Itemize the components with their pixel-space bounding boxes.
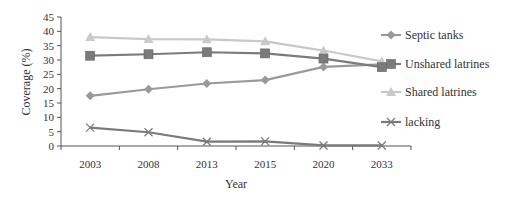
x-tick-label: 2020 bbox=[313, 158, 336, 170]
square-marker-icon bbox=[319, 54, 328, 63]
diamond-marker-icon bbox=[144, 85, 153, 94]
square-marker-icon bbox=[202, 48, 211, 57]
legend-label: Septic tanks bbox=[405, 28, 464, 42]
square-marker-icon bbox=[261, 49, 270, 58]
legend-label: lacking bbox=[405, 115, 440, 129]
y-tick-label: 20 bbox=[43, 83, 55, 95]
y-tick-label: 40 bbox=[43, 25, 55, 37]
x-tick-label: 2008 bbox=[138, 158, 161, 170]
legend-item: Shared latrines bbox=[381, 85, 477, 99]
y-tick-label: 0 bbox=[49, 140, 55, 152]
line-chart: 051015202530354045 200320082013201520202… bbox=[0, 0, 508, 197]
y-tick-label: 10 bbox=[43, 111, 55, 123]
y-axis: 051015202530354045 bbox=[43, 11, 61, 152]
square-marker-icon bbox=[144, 50, 153, 59]
square-marker-icon bbox=[387, 60, 396, 69]
y-axis-title: Coverage (%) bbox=[19, 49, 33, 116]
y-tick-label: 45 bbox=[43, 11, 55, 23]
legend-label: Unshared latrines bbox=[405, 57, 490, 71]
y-tick-label: 25 bbox=[43, 68, 55, 80]
legend-label: Shared latrines bbox=[405, 85, 477, 99]
x-tick-label: 2013 bbox=[196, 158, 219, 170]
series-unshared-latrines bbox=[86, 48, 387, 72]
legend-item: Unshared latrines bbox=[381, 57, 490, 71]
series-septic-tanks bbox=[86, 60, 387, 101]
diamond-marker-icon bbox=[202, 79, 211, 88]
legend-item: Septic tanks bbox=[381, 28, 464, 42]
x-axis-title: Year bbox=[225, 177, 247, 191]
y-tick-label: 35 bbox=[43, 40, 55, 52]
diamond-marker-icon bbox=[86, 91, 95, 100]
x-axis: 200320082013201520202033 bbox=[61, 146, 411, 170]
x-tick-label: 2003 bbox=[79, 158, 102, 170]
square-marker-icon bbox=[86, 51, 95, 60]
y-tick-label: 5 bbox=[49, 126, 55, 138]
legend: Septic tanksUnshared latrinesShared latr… bbox=[381, 28, 490, 129]
x-tick-label: 2033 bbox=[371, 158, 394, 170]
legend-item: lacking bbox=[381, 115, 440, 129]
diamond-marker-icon bbox=[387, 31, 396, 40]
x-tick-label: 2015 bbox=[254, 158, 277, 170]
y-tick-label: 15 bbox=[43, 97, 55, 109]
series-layer bbox=[85, 32, 387, 149]
diamond-marker-icon bbox=[319, 62, 328, 71]
diamond-marker-icon bbox=[261, 76, 270, 85]
y-tick-label: 30 bbox=[43, 54, 55, 66]
